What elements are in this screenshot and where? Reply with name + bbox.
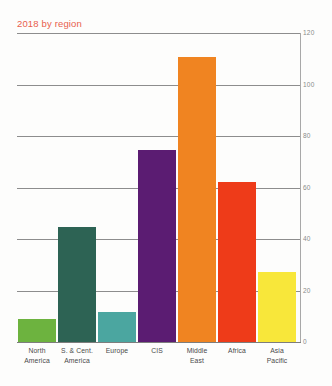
- y-tick-label-40: 40: [303, 236, 311, 243]
- x-axis-category-labels: NorthAmericaS. & Cent.AmericaEuropeCISMi…: [17, 346, 300, 384]
- x-label-line: East: [175, 356, 219, 366]
- bar-1[interactable]: [58, 227, 96, 342]
- chart-title: 2018 by region: [17, 18, 82, 29]
- y-axis-line: [300, 33, 301, 342]
- bar-2[interactable]: [98, 312, 136, 342]
- x-label-line: CIS: [135, 346, 179, 356]
- x-label-line: North: [15, 346, 59, 356]
- y-tick-label-100: 100: [303, 82, 314, 89]
- x-label-0: NorthAmerica: [15, 346, 59, 365]
- x-label-4: MiddleEast: [175, 346, 219, 365]
- x-label-line: Pacific: [255, 356, 299, 366]
- y-tick-label-60: 60: [303, 185, 311, 192]
- y-tick-label-20: 20: [303, 288, 311, 295]
- y-tick-label-120: 120: [303, 30, 314, 37]
- x-label-line: America: [15, 356, 59, 366]
- x-label-5: Africa: [215, 346, 259, 356]
- x-label-1: S. & Cent.America: [55, 346, 99, 365]
- x-label-line: Europe: [95, 346, 139, 356]
- x-label-line: Asia: [255, 346, 299, 356]
- x-axis-line: [17, 342, 301, 343]
- x-label-6: AsiaPacific: [255, 346, 299, 365]
- y-tick-label-80: 80: [303, 133, 311, 140]
- y-tick-label-0: 0: [303, 339, 307, 346]
- bar-4[interactable]: [178, 57, 216, 342]
- x-label-2: Europe: [95, 346, 139, 356]
- bar-0[interactable]: [18, 319, 56, 342]
- x-label-line: Middle: [175, 346, 219, 356]
- bar-6[interactable]: [258, 272, 296, 342]
- chart-page: 2018 by region 020406080100120 NorthAmer…: [0, 0, 332, 386]
- bar-series: [17, 33, 300, 342]
- x-label-line: Africa: [215, 346, 259, 356]
- x-label-line: S. & Cent.: [55, 346, 99, 356]
- x-label-3: CIS: [135, 346, 179, 356]
- bar-5[interactable]: [218, 182, 256, 342]
- x-label-line: America: [55, 356, 99, 366]
- bar-3[interactable]: [138, 150, 176, 342]
